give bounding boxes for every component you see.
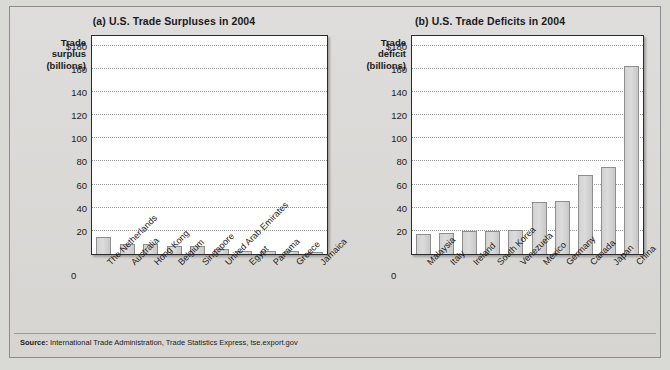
y-tick-label-120: 120 [27,110,87,121]
bar [96,237,111,254]
y-tick-label-120: 120 [347,110,407,121]
panel-b-title: (b) U.S. Trade Deficits in 2004 [330,15,650,27]
source-note: Source: International Trade Administrati… [20,338,298,347]
y-tick-label-40: 40 [347,203,407,214]
y-tick-label-100: 100 [27,133,87,144]
y-tick-label-140: 140 [347,87,407,98]
panel-a-bars [92,36,327,254]
y-tick-label-60: 60 [347,180,407,191]
panel-b-plot-area [411,35,644,255]
y-tick-label-100: 100 [347,133,407,144]
y-tick-label-40: 40 [27,203,87,214]
figure-root: (a) U.S. Trade Surpluses in 2004 Trade s… [0,0,670,370]
panel-b-x-axis-labels: MalaysiaItalyIrelandSouth KoreaVenezuela… [330,258,650,328]
source-text: International Trade Administration, Trad… [48,338,298,347]
y-tick-label-160: 160 [347,64,407,75]
y-tick-label-20: 20 [27,226,87,237]
y-tick-label-140: 140 [27,87,87,98]
y-tick-label-180: $180 [347,41,407,52]
panel-a-plot-area [91,35,328,255]
y-tick-label-180: $180 [27,41,87,52]
bar [624,66,639,254]
panel-a-title: (a) U.S. Trade Surpluses in 2004 [14,15,334,27]
y-tick-label-160: 160 [27,64,87,75]
y-tick-label-80: 80 [27,156,87,167]
y-tick-label-80: 80 [347,156,407,167]
y-tick-label-20: 20 [347,226,407,237]
y-tick-label-60: 60 [27,180,87,191]
bar [416,234,431,254]
source-label: Source: [20,338,48,347]
footer-divider [14,333,656,334]
bar [462,231,477,254]
panel-a-x-axis-labels: The NetherlandsAustraliaHong KongBelgium… [14,258,334,328]
panel-b-bars [412,36,643,254]
